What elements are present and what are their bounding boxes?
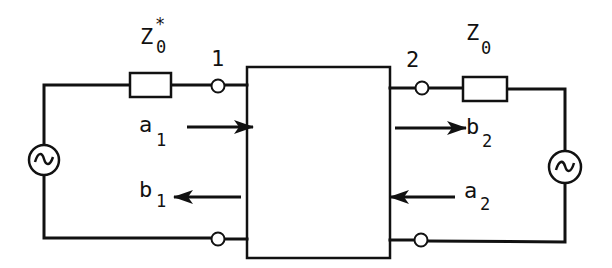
port1-top-terminal — [212, 80, 225, 93]
left-top-wire — [44, 85, 130, 145]
port2-label: 2 — [406, 47, 419, 72]
left-circuit — [29, 73, 247, 246]
right-ac-source-icon — [549, 151, 581, 183]
port2-top-terminal — [416, 82, 429, 95]
left-ac-source-icon — [29, 145, 59, 175]
port1-bottom-terminal — [212, 233, 225, 246]
port1-label: 1 — [211, 46, 224, 71]
svg-text:b: b — [466, 114, 479, 139]
svg-text:*: * — [155, 14, 165, 34]
right-bottom-wire — [428, 183, 565, 242]
svg-text:2: 2 — [482, 131, 492, 151]
right-circuit — [390, 77, 581, 247]
svg-text:Z: Z — [466, 20, 479, 45]
svg-text:0: 0 — [156, 37, 166, 57]
impedance-z0-conjugate — [130, 73, 171, 97]
label-b1: b 1 — [139, 177, 166, 211]
label-z0: Z 0 — [466, 20, 491, 58]
svg-text:a: a — [139, 112, 152, 137]
svg-text:2: 2 — [480, 194, 490, 214]
label-z0-conjugate: Z 0 * — [140, 14, 166, 57]
label-b2: b 2 — [466, 114, 492, 151]
two-port-network-box — [247, 67, 390, 258]
svg-text:b: b — [139, 177, 152, 202]
port2-bottom-terminal — [415, 234, 428, 247]
svg-text:1: 1 — [156, 191, 166, 211]
label-a2: a 2 — [464, 178, 490, 214]
impedance-z0 — [463, 77, 507, 101]
svg-text:0: 0 — [481, 38, 491, 58]
right-top-wire — [507, 89, 565, 151]
left-bottom-wire — [44, 175, 211, 238]
two-port-circuit-diagram: Z 0 * Z 0 1 2 a 1 b 1 b 2 a 2 — [0, 0, 612, 268]
label-a1: a 1 — [139, 112, 166, 150]
svg-text:1: 1 — [156, 130, 166, 150]
svg-text:Z: Z — [140, 24, 153, 49]
svg-text:a: a — [464, 178, 477, 203]
